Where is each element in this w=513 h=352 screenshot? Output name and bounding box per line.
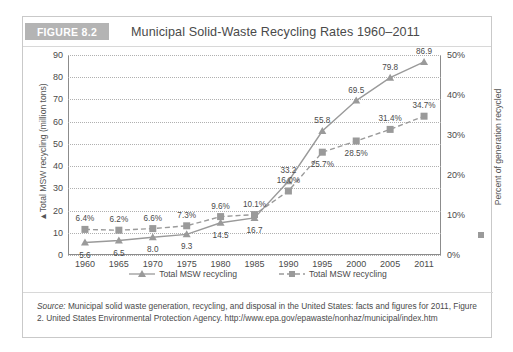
data-point-label: 10.1% (243, 199, 266, 208)
square-marker-icon (217, 213, 224, 220)
y-axis-right-tick-label: 10% (447, 210, 465, 220)
triangle-marker-icon (420, 58, 428, 65)
y-axis-left-tick-label: 10 (53, 228, 63, 238)
data-point-label: 6.5 (113, 248, 124, 257)
data-point-label: 33.2 (280, 166, 296, 175)
x-axis-tick-label: 2000 (346, 259, 366, 269)
data-point-label: 86.9 (416, 46, 432, 55)
data-point-label: 9.3 (181, 242, 192, 251)
data-point-label: 5.6 (79, 250, 90, 259)
x-axis-tick-label: 1990 (278, 259, 298, 269)
triangle-marker-icon (129, 269, 155, 279)
x-axis-tick-label: 1965 (109, 259, 129, 269)
y-axis-right-tick-label: 20% (447, 170, 465, 180)
data-point-label: 14.5 (213, 230, 229, 239)
square-marker-icon (319, 149, 326, 156)
data-point-label: 9.6% (211, 201, 230, 210)
figure-card: FIGURE 8.2 Municipal Solid-Waste Recycli… (22, 16, 492, 338)
square-marker-icon (421, 113, 428, 120)
data-point-label: 28.5% (345, 149, 368, 158)
data-point-label: 16.0% (277, 176, 300, 185)
square-marker-icon (285, 188, 292, 195)
y-axis-left-tick-label: 70 (53, 94, 63, 104)
y-axis-left-tick-label: 50 (53, 139, 63, 149)
chart-legend: Total MSW recyclingTotal MSW recycling (23, 269, 493, 279)
y-axis-left-tick-label: 90 (53, 50, 63, 60)
triangle-marker-icon (352, 97, 360, 104)
x-axis-tick-label: 1985 (244, 259, 264, 269)
square-marker-icon (478, 232, 484, 238)
data-point-label: 6.4% (76, 214, 95, 223)
y-axis-left-tick-label: 20 (53, 206, 63, 216)
y-axis-right-title: Percent of generation recycled (493, 42, 503, 252)
x-axis-tick-label: 1980 (211, 259, 231, 269)
x-axis-tick-label: 1970 (143, 259, 163, 269)
source-note: Source: Municipal solid waste generation… (37, 300, 479, 324)
data-point-label: 6.6% (143, 213, 162, 222)
triangle-marker-icon (386, 74, 394, 81)
y-axis-right-tick-label: 0% (447, 250, 460, 260)
data-point-label: 6.2% (110, 215, 129, 224)
y-axis-left-tick-label: 0 (58, 250, 63, 260)
y-axis-left-tick-label: 30 (53, 183, 63, 193)
y-axis-left-tick-label: 80 (53, 72, 63, 82)
x-axis-tick-label: 1995 (312, 259, 332, 269)
square-marker-icon (279, 269, 305, 279)
plot-area: 0102030405060708090 0%10%20%30%40%50% 19… (68, 55, 441, 255)
source-label: Source: (37, 301, 66, 311)
figure-header: FIGURE 8.2 Municipal Solid-Waste Recycli… (23, 17, 491, 47)
x-axis-tick-label: 1960 (75, 259, 95, 269)
legend-item[interactable]: Total MSW recycling (129, 269, 237, 279)
y-axis-right-tick-label: 40% (447, 90, 465, 100)
square-marker-icon (115, 227, 122, 234)
square-marker-icon (183, 222, 190, 229)
x-axis-tick-label: 2005 (380, 259, 400, 269)
data-point-label: 31.4% (379, 114, 402, 123)
y-axis-left-tick-label: 40 (53, 161, 63, 171)
source-body: Municipal solid waste generation, recycl… (37, 301, 477, 323)
source-block: Source: Municipal solid waste generation… (23, 292, 493, 338)
square-marker-icon (387, 126, 394, 133)
figure-title: Municipal Solid-Waste Recycling Rates 19… (131, 25, 420, 39)
x-axis-tick-label: 2011 (414, 259, 433, 269)
figure-badge: FIGURE 8.2 (25, 23, 109, 40)
data-point-label: 79.8 (382, 62, 398, 71)
legend-label: Total MSW recycling (309, 269, 387, 279)
y-axis-left-tick-label: 60 (53, 117, 63, 127)
square-marker-icon (149, 225, 156, 232)
chart-region: ▲Total MSW recycling (million tons) Perc… (23, 47, 493, 290)
data-point-label: 7.3% (177, 210, 196, 219)
legend-label: Total MSW recycling (159, 269, 237, 279)
square-marker-icon (81, 226, 88, 233)
square-marker-icon (251, 211, 258, 218)
y-axis-right-tick-label: 30% (447, 130, 465, 140)
legend-item[interactable]: Total MSW recycling (279, 269, 387, 279)
data-point-label: 55.8 (314, 116, 330, 125)
data-point-label: 8.0 (147, 245, 158, 254)
data-point-label: 25.7% (311, 160, 334, 169)
data-point-label: 34.7% (412, 101, 435, 110)
data-point-label: 69.5 (348, 85, 364, 94)
x-axis-tick-label: 1975 (177, 259, 197, 269)
y-axis-right-tick-label: 50% (447, 50, 465, 60)
square-marker-icon (353, 138, 360, 145)
data-point-label: 16.7 (247, 225, 263, 234)
y-axis-left-title: ▲Total MSW recycling (million tons) (38, 47, 48, 257)
